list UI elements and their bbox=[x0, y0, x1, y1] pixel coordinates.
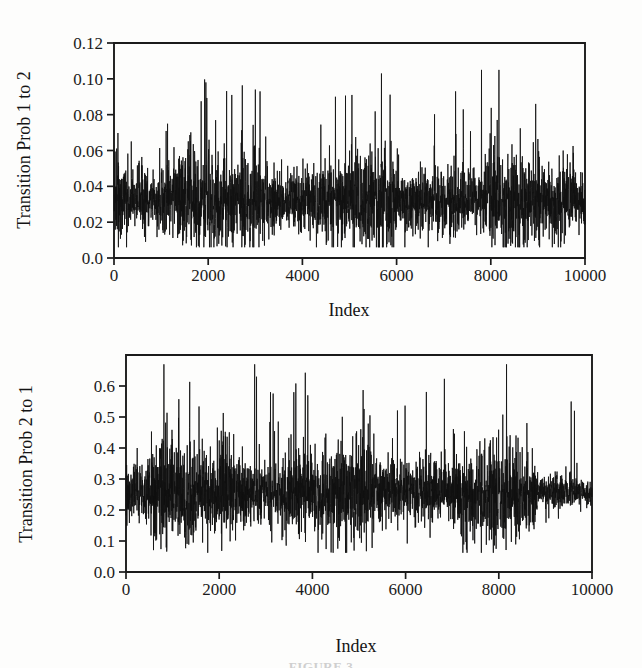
x-tick-label: 6000 bbox=[380, 266, 414, 285]
x-tick-label: 2000 bbox=[191, 266, 225, 285]
x-tick-label: 8000 bbox=[482, 580, 516, 599]
y-axis-title-top: Transition Prob 1 to 2 bbox=[14, 71, 34, 228]
figure-caption: FIGURE 3 bbox=[0, 656, 642, 668]
trace-plot-bottom: 0.00.10.20.30.40.50.6 020004000600080001… bbox=[0, 334, 642, 668]
series-trace-bottom bbox=[126, 364, 592, 552]
x-tick-label: 0 bbox=[122, 580, 131, 599]
y-axis-ticks-top bbox=[107, 43, 114, 258]
y-axis-ticks-bottom bbox=[119, 386, 126, 572]
y-tick-label: 0.1 bbox=[94, 532, 115, 551]
y-tick-label: 0.6 bbox=[94, 377, 115, 396]
x-tick-label: 6000 bbox=[389, 580, 423, 599]
x-tick-label: 0 bbox=[110, 266, 119, 285]
y-tick-label: 0.5 bbox=[94, 408, 115, 427]
y-tick-label: 0.02 bbox=[73, 213, 103, 232]
x-tick-label: 10000 bbox=[564, 266, 607, 285]
x-tick-label: 8000 bbox=[474, 266, 508, 285]
x-axis-title-bottom: Index bbox=[336, 636, 377, 656]
y-tick-label: 0.4 bbox=[94, 439, 116, 458]
y-tick-label: 0.0 bbox=[82, 249, 103, 268]
trace-plot-top: 0.00.020.040.060.080.100.12 020004000600… bbox=[0, 0, 642, 334]
x-axis-title-top: Index bbox=[329, 300, 370, 320]
x-axis-tick-labels-bottom: 0200040006000800010000 bbox=[122, 580, 614, 599]
figure-page: 0.00.020.040.060.080.100.12 020004000600… bbox=[0, 0, 642, 668]
y-tick-label: 0.04 bbox=[73, 177, 103, 196]
y-axis-title-bottom: Transition Prob 2 to 1 bbox=[16, 385, 36, 542]
y-tick-label: 0.08 bbox=[73, 106, 103, 125]
y-tick-label: 0.10 bbox=[73, 70, 103, 89]
y-tick-label: 0.06 bbox=[73, 142, 103, 161]
chart-panel-top: 0.00.020.040.060.080.100.12 020004000600… bbox=[0, 0, 642, 334]
x-axis-tick-labels-top: 0200040006000800010000 bbox=[110, 266, 607, 285]
x-tick-label: 4000 bbox=[285, 266, 319, 285]
y-tick-label: 0.12 bbox=[73, 34, 103, 53]
x-tick-label: 10000 bbox=[571, 580, 614, 599]
x-axis-ticks-bottom bbox=[126, 572, 592, 579]
y-tick-label: 0.2 bbox=[94, 501, 115, 520]
x-axis-ticks-top bbox=[114, 258, 585, 265]
y-axis-tick-labels-top: 0.00.020.040.060.080.100.12 bbox=[73, 34, 103, 268]
series-trace-top bbox=[114, 70, 585, 247]
x-tick-label: 4000 bbox=[295, 580, 329, 599]
x-tick-label: 2000 bbox=[202, 580, 236, 599]
y-tick-label: 0.0 bbox=[94, 563, 115, 582]
y-tick-label: 0.3 bbox=[94, 470, 115, 489]
chart-panel-bottom: 0.00.10.20.30.40.50.6 020004000600080001… bbox=[0, 334, 642, 668]
y-axis-tick-labels-bottom: 0.00.10.20.30.40.50.6 bbox=[94, 377, 116, 582]
